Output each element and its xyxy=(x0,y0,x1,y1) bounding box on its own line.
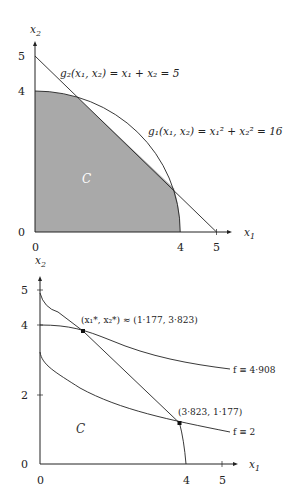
level-curve-low xyxy=(40,352,230,432)
y-axis-arrow-icon xyxy=(38,276,42,281)
level-label-low: f ≡ 2 xyxy=(233,427,255,437)
y-axis-label: x2 xyxy=(35,254,46,269)
bottom-diagram: x2 5 4 2 0 0 4 5 x1 (x₁*, x₂*) ≈ (1·177,… xyxy=(21,254,276,487)
tick-label-x5: 5 xyxy=(219,474,226,487)
tick-label-x4: 4 xyxy=(177,241,184,254)
tick-label-x0: 0 xyxy=(37,474,44,487)
second-point xyxy=(178,421,182,425)
tick-label-y4: 4 xyxy=(21,319,28,332)
x-axis-arrow-icon xyxy=(233,462,238,466)
tick-label-y4: 4 xyxy=(18,85,25,98)
figure: x2 5 4 0 0 4 5 x1 g₂(x₁, x₂) = x₁ + x₂ =… xyxy=(0,0,293,503)
tick-label-y5: 5 xyxy=(21,284,28,297)
tick-label-x5: 5 xyxy=(213,241,220,254)
tick-label-y2: 2 xyxy=(21,389,28,402)
x-axis-label: x1 xyxy=(244,226,255,241)
region-label: C xyxy=(82,172,91,186)
tick-label-x0: 0 xyxy=(32,241,39,254)
optimum-point xyxy=(81,329,85,333)
x-axis-arrow-icon xyxy=(227,230,232,234)
level-label-high: f ≡ 4·908 xyxy=(233,365,276,375)
feasible-region xyxy=(35,91,180,232)
top-diagram: x2 5 4 0 0 4 5 x1 g₂(x₁, x₂) = x₁ + x₂ =… xyxy=(18,23,283,254)
level-curve-high xyxy=(40,325,230,369)
optimum-label: (x₁*, x₂*) ≈ (1·177, 3·823) xyxy=(81,315,198,325)
g1-label: g₁(x₁, x₂) = x₁² + x₂² = 16 xyxy=(148,125,283,137)
second-point-label: (3·823, 1·177) xyxy=(178,407,242,417)
constraint-arc xyxy=(180,423,187,464)
y-axis-label: x2 xyxy=(30,23,41,38)
constraint-line xyxy=(40,293,180,423)
g2-label: g₂(x₁, x₂) = x₁ + x₂ = 5 xyxy=(60,67,180,79)
y-axis-arrow-icon xyxy=(33,41,37,46)
tick-label-y0: 0 xyxy=(18,226,25,239)
x-axis-label: x1 xyxy=(249,458,260,473)
tick-label-y5: 5 xyxy=(18,50,25,63)
tick-label-x4: 4 xyxy=(183,474,190,487)
tick-label-y0: 0 xyxy=(21,458,28,471)
region-label: C xyxy=(76,422,85,436)
